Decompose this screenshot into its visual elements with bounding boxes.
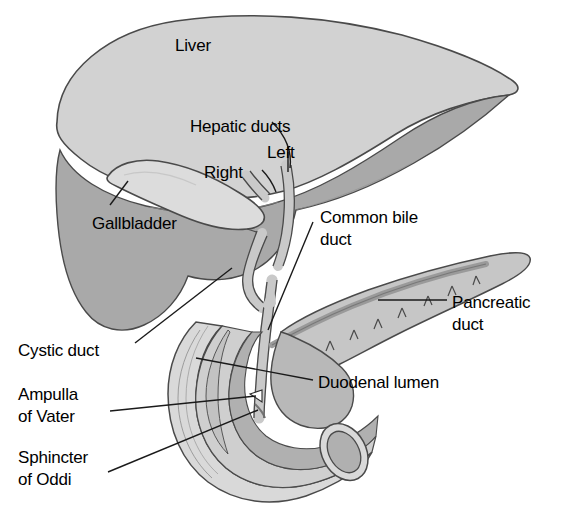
label-pancreatic-duct-line2: duct bbox=[452, 315, 483, 335]
label-ampulla-of-vater-line1: Ampulla bbox=[18, 385, 78, 405]
label-duodenal-lumen: Duodenal lumen bbox=[318, 373, 439, 393]
pancreas bbox=[271, 253, 530, 429]
label-liver: Liver bbox=[175, 36, 211, 56]
label-ampulla-of-vater-line2: of Vater bbox=[18, 407, 75, 427]
label-gallbladder: Gallbladder bbox=[92, 214, 177, 234]
label-left-hepatic-duct: Left bbox=[267, 143, 295, 163]
anatomy-figure: Liver Hepatic ducts Left Right Gallbladd… bbox=[0, 0, 569, 520]
label-common-bile-duct-line2: duct bbox=[320, 230, 351, 250]
label-right-hepatic-duct: Right bbox=[204, 163, 243, 183]
label-hepatic-ducts: Hepatic ducts bbox=[190, 117, 290, 137]
label-sphincter-of-oddi-line2: of Oddi bbox=[18, 470, 71, 490]
label-common-bile-duct-line1: Common bile bbox=[320, 208, 418, 228]
anatomy-illustration bbox=[0, 0, 569, 520]
label-sphincter-of-oddi-line1: Sphincter bbox=[18, 448, 88, 468]
label-pancreatic-duct-line1: Pancreatic bbox=[452, 293, 530, 313]
label-cystic-duct: Cystic duct bbox=[18, 341, 99, 361]
